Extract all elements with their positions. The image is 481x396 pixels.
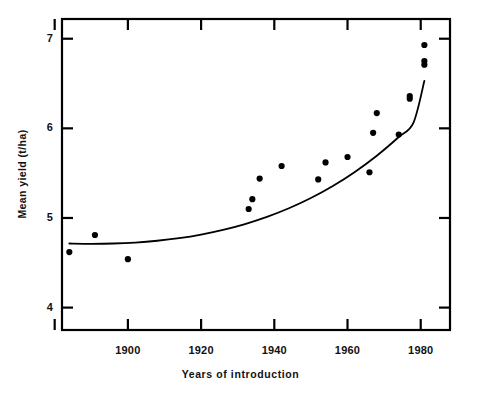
top-axis-ticks — [55, 19, 421, 30]
x-axis-title: Years of introduction — [0, 368, 481, 380]
data-point-group — [66, 42, 427, 262]
y-tick-label-7: 7 — [31, 32, 53, 44]
data-point — [257, 175, 263, 181]
x-tick-label-1900: 1900 — [106, 344, 150, 356]
scatter-plot-canvas — [0, 0, 481, 396]
data-point — [249, 196, 255, 202]
x-tick-label-1940: 1940 — [252, 344, 296, 356]
data-point — [344, 154, 350, 160]
data-point — [370, 130, 376, 136]
data-point — [374, 110, 380, 116]
data-point — [315, 176, 321, 182]
axis-frame — [62, 19, 450, 330]
data-point — [396, 132, 402, 138]
data-point — [421, 42, 427, 48]
data-point — [92, 232, 98, 238]
data-point — [421, 58, 427, 64]
x-axis-ticks — [55, 319, 421, 330]
data-point — [66, 249, 72, 255]
y-tick-label-6: 6 — [31, 121, 53, 133]
right-axis-ticks — [439, 39, 450, 308]
data-point — [125, 256, 131, 262]
chart-figure: 4567 19001920194019601980 Years of intro… — [0, 0, 481, 396]
y-axis-ticks — [62, 39, 73, 308]
data-point — [366, 169, 372, 175]
y-axis-title: Mean yield (t/ha) — [16, 99, 28, 249]
x-tick-label-1980: 1980 — [399, 344, 443, 356]
x-tick-label-1960: 1960 — [326, 344, 370, 356]
x-tick-label-1920: 1920 — [179, 344, 223, 356]
data-point — [246, 206, 252, 212]
plot-frame — [62, 19, 450, 330]
fitted-trend-line — [69, 81, 424, 244]
y-tick-label-5: 5 — [31, 211, 53, 223]
data-point — [279, 163, 285, 169]
data-point — [322, 159, 328, 165]
data-point — [407, 93, 413, 99]
y-tick-label-4: 4 — [31, 301, 53, 313]
